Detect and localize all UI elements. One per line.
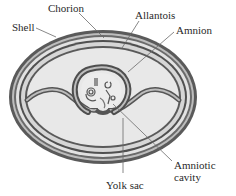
label-chorion: Chorion <box>48 3 84 14</box>
label-amnion: Amnion <box>176 25 212 36</box>
label-shell: Shell <box>12 22 35 33</box>
label-amniotic-cavity-2: cavity <box>174 172 201 183</box>
label-allantois: Allantois <box>135 10 175 21</box>
label-amniotic-cavity-1: Amniotic <box>174 160 216 171</box>
leader-shell <box>36 28 56 37</box>
label-yolk-sac: Yolk sac <box>106 180 144 191</box>
